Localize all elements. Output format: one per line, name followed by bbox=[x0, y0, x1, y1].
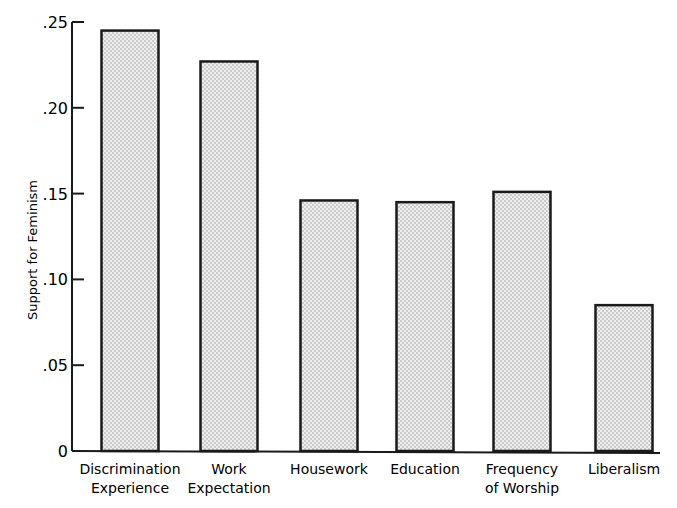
x-category-label: Expectation bbox=[187, 480, 270, 496]
bar bbox=[494, 192, 551, 451]
y-axis-label: Support for Feminism bbox=[25, 180, 40, 320]
x-category-label: Liberalism bbox=[588, 461, 660, 477]
bar-chart: 0.05.10.15.20.25 DiscriminationExperienc… bbox=[0, 0, 677, 508]
x-category-label: of Worship bbox=[485, 480, 559, 496]
x-category-label: Experience bbox=[91, 480, 169, 496]
y-tick-label: .20 bbox=[43, 99, 68, 118]
x-axis-labels: DiscriminationExperienceWorkExpectationH… bbox=[79, 461, 660, 496]
bar bbox=[102, 31, 159, 451]
y-tick-label: .15 bbox=[43, 185, 68, 204]
bar bbox=[397, 202, 454, 451]
y-tick-label: .25 bbox=[43, 13, 68, 32]
y-tick-label: .05 bbox=[43, 356, 68, 375]
y-tick-label: 0 bbox=[58, 442, 68, 461]
bar bbox=[596, 305, 653, 451]
x-category-label: Housework bbox=[290, 461, 369, 477]
bar bbox=[201, 61, 258, 451]
x-category-label: Frequency bbox=[486, 461, 558, 477]
y-tick-label: .10 bbox=[43, 270, 68, 289]
bars bbox=[102, 31, 653, 451]
bar bbox=[301, 200, 358, 451]
x-axis-line bbox=[72, 451, 660, 453]
x-category-label: Discrimination bbox=[79, 461, 180, 477]
x-category-label: Work bbox=[211, 461, 247, 477]
x-category-label: Education bbox=[390, 461, 460, 477]
